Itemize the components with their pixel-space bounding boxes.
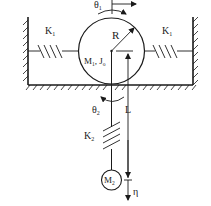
eta-label: η <box>133 186 138 197</box>
mechanical-system-diagram: θ1 K1 K1 R M1, Jo θ2 L K2 M2 η <box>0 0 211 206</box>
radius-label: R <box>112 29 120 41</box>
theta2-label: θ2 <box>92 104 100 116</box>
length-label: L <box>125 104 131 115</box>
theta2-rotation-arrow <box>101 97 124 102</box>
k1-left-label: K1 <box>45 25 55 37</box>
m1-j0-label: M1, Jo <box>84 56 106 67</box>
m2-label: M2 <box>104 175 115 186</box>
spring-k2 <box>103 122 120 149</box>
theta1-label: θ1 <box>94 0 102 11</box>
k2-label: K2 <box>84 130 94 142</box>
right-spring-k1 <box>145 45 193 58</box>
k1-right-label: K1 <box>162 25 172 37</box>
left-spring-k1 <box>28 45 78 58</box>
